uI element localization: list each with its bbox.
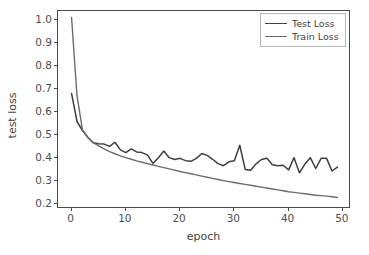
y-tick-mark [54, 203, 57, 204]
x-tick-mark [71, 208, 72, 211]
y-tick-mark [54, 157, 57, 158]
y-tick-label: 0.6 [35, 105, 52, 117]
y-tick-mark [54, 111, 57, 112]
x-axis-label: epoch [57, 230, 350, 243]
x-tick-label: 10 [118, 212, 131, 224]
x-tick-mark [179, 208, 180, 211]
y-tick-label: 0.2 [35, 197, 52, 209]
x-tick-label: 40 [281, 212, 294, 224]
series-line [72, 93, 338, 172]
y-tick-label: 0.9 [35, 36, 52, 48]
y-tick-label: 0.7 [35, 82, 52, 94]
x-tick-label: 20 [172, 212, 185, 224]
y-tick-label: 0.3 [35, 174, 52, 186]
y-tick-label: 0.5 [35, 128, 52, 140]
figure: test loss 0.20.30.40.50.60.70.80.91.0 01… [0, 0, 369, 255]
y-tick-mark [54, 88, 57, 89]
x-tick-mark [233, 208, 234, 211]
y-tick-label: 0.8 [35, 59, 52, 71]
x-tick-label: 0 [67, 212, 74, 224]
legend-label-test-loss: Test Loss [292, 18, 335, 29]
x-tick-label: 50 [335, 212, 348, 224]
legend-label-train-loss: Train Loss [292, 31, 339, 42]
y-tick-mark [54, 19, 57, 20]
legend-swatch-test-loss [265, 23, 287, 24]
x-tick-mark [342, 208, 343, 211]
x-tick-mark [125, 208, 126, 211]
y-tick-mark [54, 65, 57, 66]
legend-swatch-train-loss [265, 36, 287, 37]
x-tick-mark [288, 208, 289, 211]
y-tick-label: 0.4 [35, 151, 52, 163]
x-axis-tick-labels: 01020304050 [0, 212, 369, 228]
y-tick-label: 1.0 [35, 13, 52, 25]
y-tick-mark [54, 134, 57, 135]
legend-item-test-loss: Test Loss [265, 17, 339, 30]
legend-item-train-loss: Train Loss [265, 30, 339, 43]
y-tick-mark [54, 42, 57, 43]
y-tick-mark [54, 180, 57, 181]
x-tick-label: 30 [227, 212, 240, 224]
legend: Test Loss Train Loss [260, 13, 346, 47]
